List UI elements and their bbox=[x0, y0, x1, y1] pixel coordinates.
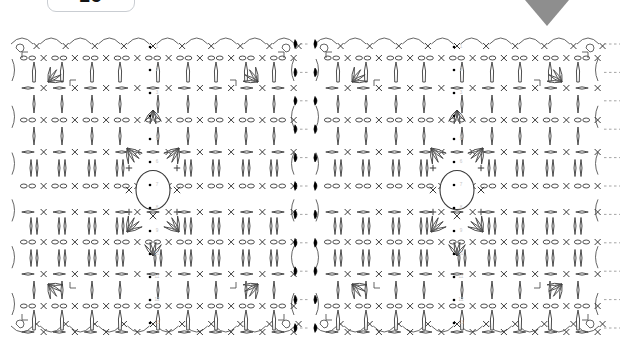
chain-stitch bbox=[185, 240, 192, 244]
slip-stitch-symbol bbox=[314, 182, 317, 191]
chain-stitch bbox=[22, 273, 34, 275]
row-number-label: 4 bbox=[460, 113, 463, 118]
chain-stitch bbox=[333, 56, 340, 60]
single-crochet-symbol bbox=[134, 85, 140, 91]
row-join-marker bbox=[534, 282, 540, 288]
single-crochet-symbol bbox=[595, 183, 601, 189]
single-crochet-symbol bbox=[438, 117, 444, 123]
chain-stitch bbox=[418, 184, 425, 188]
chain-stitch bbox=[60, 118, 67, 122]
chain-stitch bbox=[22, 211, 34, 213]
magic-ring-symbol bbox=[136, 170, 170, 209]
double-crochet-symbol bbox=[58, 218, 60, 235]
single-crochet-symbol bbox=[166, 209, 172, 215]
chain-stitch bbox=[29, 56, 36, 60]
single-crochet-symbol bbox=[259, 149, 265, 155]
treble-crochet-symbol bbox=[186, 310, 189, 330]
chain-stitch bbox=[177, 56, 184, 60]
chain-stitch bbox=[185, 118, 192, 122]
single-crochet-symbol bbox=[563, 55, 569, 61]
chain-stitch bbox=[388, 273, 400, 275]
chain-stitch bbox=[239, 118, 246, 122]
edge-loop-symbol bbox=[292, 153, 295, 175]
single-crochet-symbol bbox=[266, 43, 272, 49]
single-crochet-symbol bbox=[41, 55, 47, 61]
chain-stitch bbox=[84, 87, 96, 89]
slip-stitch-symbol bbox=[314, 40, 317, 49]
chain-stitch bbox=[545, 211, 557, 213]
row-number-label: 12 bbox=[458, 297, 464, 302]
double-crochet-symbol bbox=[488, 250, 490, 267]
chain-stitch bbox=[543, 184, 550, 188]
shell-cluster-symbol bbox=[431, 216, 447, 232]
single-crochet-symbol bbox=[478, 209, 484, 215]
chain-stitch bbox=[451, 87, 463, 89]
double-crochet-symbol bbox=[64, 218, 66, 235]
double-crochet-symbol bbox=[218, 218, 220, 235]
single-crochet-symbol bbox=[228, 149, 234, 155]
shell-cluster-symbol bbox=[48, 283, 63, 299]
single-crochet-symbol bbox=[595, 329, 601, 335]
double-crochet-symbol bbox=[184, 218, 186, 235]
double-crochet-symbol bbox=[190, 160, 192, 177]
row-number-label: 11 bbox=[155, 274, 160, 279]
double-crochet-symbol bbox=[488, 160, 490, 177]
chain-stitch bbox=[418, 118, 425, 122]
double-crochet-symbol bbox=[334, 160, 336, 177]
chain-stitch bbox=[420, 331, 432, 333]
double-crochet-symbol bbox=[574, 218, 576, 235]
row-number-label: 2 bbox=[156, 67, 159, 72]
chain-stitch bbox=[123, 56, 130, 60]
slip-stitch-symbol bbox=[453, 115, 456, 118]
chain-stitch bbox=[387, 304, 394, 308]
chain-stitch bbox=[576, 87, 588, 89]
double-crochet-symbol bbox=[122, 160, 124, 177]
double-crochet-symbol bbox=[116, 160, 118, 177]
chain-stitch bbox=[241, 151, 253, 153]
single-crochet-symbol bbox=[166, 271, 172, 277]
chain-stitch bbox=[248, 240, 255, 244]
slip-stitch-symbol bbox=[314, 210, 317, 219]
row-number-label: 8 bbox=[156, 205, 159, 210]
single-crochet-symbol bbox=[197, 117, 203, 123]
chain-stitch bbox=[324, 56, 331, 60]
edge-loop-symbol bbox=[12, 293, 15, 315]
edge-loop-symbol bbox=[596, 59, 599, 81]
edge-loop-symbol bbox=[292, 246, 295, 268]
single-crochet-symbol bbox=[72, 329, 78, 335]
single-crochet-symbol bbox=[92, 43, 98, 49]
single-crochet-symbol bbox=[501, 209, 507, 215]
single-crochet-symbol bbox=[228, 117, 234, 123]
single-crochet-symbol bbox=[121, 43, 127, 49]
single-crochet-symbol bbox=[501, 85, 507, 91]
double-crochet-symbol bbox=[580, 250, 582, 267]
single-crochet-symbol bbox=[541, 321, 547, 327]
double-crochet-symbol bbox=[522, 218, 524, 235]
chain-stitch bbox=[20, 118, 27, 122]
chain-stitch bbox=[356, 240, 363, 244]
chain-stitch bbox=[209, 331, 221, 333]
chain-stitch bbox=[326, 87, 338, 89]
chain-stitch bbox=[552, 304, 559, 308]
treble-crochet-symbol bbox=[118, 62, 121, 82]
double-crochet-symbol bbox=[546, 250, 548, 267]
double-crochet-symbol bbox=[368, 250, 370, 267]
single-crochet-symbol bbox=[228, 271, 234, 277]
chain-stitch bbox=[178, 273, 190, 275]
chain-stitch bbox=[552, 118, 559, 122]
double-crochet-symbol bbox=[119, 281, 121, 299]
row-number-label: 3 bbox=[460, 90, 463, 95]
chain-stitch bbox=[420, 273, 432, 275]
chain-stitch bbox=[208, 184, 215, 188]
chain-stitch bbox=[576, 151, 588, 153]
double-crochet-symbol bbox=[580, 160, 582, 177]
single-crochet-symbol bbox=[259, 183, 265, 189]
corner-spiral-symbol bbox=[16, 44, 24, 52]
double-crochet-symbol bbox=[91, 281, 93, 299]
single-crochet-symbol bbox=[454, 213, 460, 219]
double-crochet-symbol bbox=[577, 281, 579, 299]
double-crochet-symbol bbox=[337, 95, 339, 113]
double-crochet-symbol bbox=[522, 250, 524, 267]
chain-stitch bbox=[449, 56, 456, 60]
double-crochet-symbol bbox=[494, 160, 496, 177]
